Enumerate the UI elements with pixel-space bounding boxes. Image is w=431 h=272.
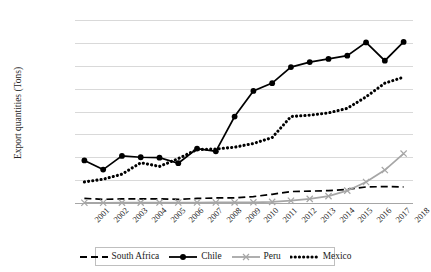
legend-item-south-africa[interactable]: South Africa: [79, 252, 160, 262]
data-point-marker: [401, 150, 407, 156]
legend-label: Chile: [201, 252, 221, 261]
data-point-marker: [363, 179, 369, 185]
data-point-marker: [288, 64, 294, 70]
legend-label: South Africa: [112, 252, 160, 261]
data-point-marker: [401, 39, 407, 45]
data-point-marker: [326, 56, 332, 62]
dashed-line-swatch: [79, 252, 109, 262]
data-point-marker: [138, 154, 144, 160]
data-point-marker: [382, 58, 388, 64]
data-point-marker: [382, 167, 388, 173]
series-chile: [81, 39, 406, 172]
legend-label: Peru: [264, 252, 281, 261]
legend-item-chile[interactable]: Chile: [168, 252, 221, 262]
x-tick-label: 2018: [413, 206, 431, 225]
series-south-africa: [84, 187, 403, 200]
x-tick-label: 2006: [187, 206, 206, 225]
data-point-marker: [250, 88, 256, 94]
x-tick-label: 2017: [394, 206, 413, 225]
gray-x-line-swatch: [231, 252, 261, 262]
data-point-marker: [100, 167, 106, 173]
chart-legend: South AfricaChilePeruMexico: [95, 247, 335, 266]
legend-item-peru[interactable]: Peru: [231, 252, 281, 262]
data-point-marker: [269, 80, 275, 86]
dotted-line-swatch: [290, 252, 320, 262]
solid-circle-line-swatch: [168, 252, 198, 262]
x-tick-label: 2004: [150, 206, 169, 225]
data-point-marker: [307, 59, 313, 65]
x-tick-label: 2010: [262, 206, 281, 225]
x-tick-label: 2011: [281, 206, 299, 224]
x-tick-label: 2002: [112, 206, 131, 225]
y-axis-title: Export quantities (Tons): [13, 43, 23, 183]
x-tick-label: 2001: [93, 206, 112, 225]
plot-area: 400,000350,000300,000250,000200,000150,0…: [75, 20, 413, 203]
data-series-lines: [75, 20, 413, 203]
x-tick-label: 2014: [338, 206, 357, 225]
data-point-marker: [119, 153, 125, 159]
x-tick-label: 2005: [169, 206, 188, 225]
data-point-marker: [232, 114, 238, 120]
x-tick-label: 2007: [206, 206, 225, 225]
x-tick-label: 2009: [244, 206, 263, 225]
legend-item-mexico[interactable]: Mexico: [290, 252, 352, 262]
x-tick-label: 2003: [131, 206, 150, 225]
legend-label: Mexico: [323, 252, 352, 261]
data-point-marker: [81, 158, 87, 164]
x-tick-label: 2015: [356, 206, 375, 225]
series-mexico: [84, 77, 403, 182]
data-point-marker: [175, 160, 181, 166]
data-point-marker: [344, 53, 350, 59]
x-tick-label: 2008: [225, 206, 244, 225]
data-point-marker: [363, 40, 369, 46]
x-tick-label: 2012: [300, 206, 319, 225]
x-tick-label: 2013: [319, 206, 338, 225]
x-tick-label: 2016: [375, 206, 394, 225]
data-point-marker: [157, 155, 163, 161]
